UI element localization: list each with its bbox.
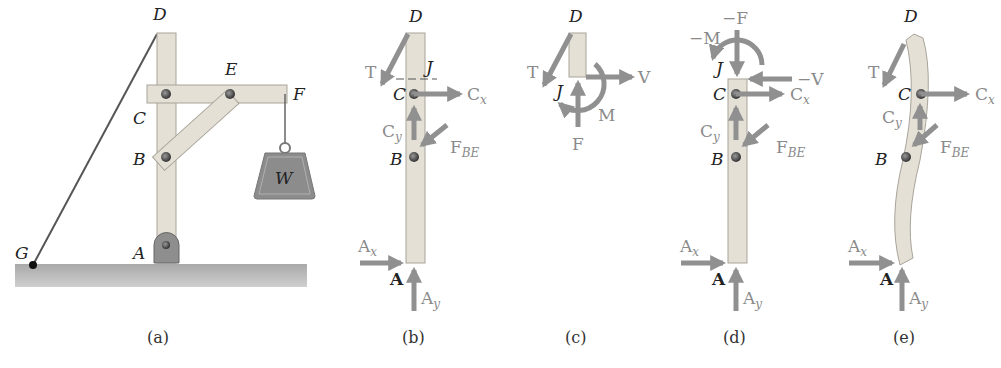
force-fbe-arrow	[422, 125, 447, 145]
force-t-arrow	[382, 34, 408, 84]
weight-hook	[280, 143, 290, 153]
label-w: W	[275, 168, 294, 188]
segment-ja	[728, 79, 747, 263]
label-a: A	[389, 269, 404, 289]
label-c: C	[133, 108, 146, 128]
anchor-g	[29, 261, 37, 269]
panel-d: −M −F −V J C B A Cx Cy FBE Ax Ay (d)	[679, 8, 824, 347]
pin-b	[161, 152, 171, 162]
label-fbe: FBE	[776, 137, 806, 160]
force-fbe-arrow	[744, 125, 768, 145]
label-d: D	[408, 6, 423, 26]
label-d: D	[152, 4, 167, 24]
label-f: F	[572, 134, 584, 154]
caption-b: (b)	[402, 328, 425, 347]
label-e: E	[224, 59, 238, 79]
label-m: M	[598, 105, 615, 125]
label-b: B	[710, 149, 724, 169]
label-c: C	[898, 84, 911, 104]
label-v: V	[637, 67, 651, 87]
label-cy: Cy	[700, 121, 720, 144]
label-b: B	[132, 149, 146, 169]
label-a: A	[131, 243, 145, 263]
panel-c: D J T V M F (c)	[527, 6, 651, 347]
label-j: J	[553, 81, 564, 101]
label-fbe: FBE	[940, 137, 970, 160]
label-neg-m: −M	[689, 28, 721, 48]
label-ax: Ax	[847, 236, 867, 259]
label-ax: Ax	[357, 236, 377, 259]
label-c: C	[393, 84, 406, 104]
caption-a: (a)	[147, 328, 169, 347]
caption-d: (d)	[723, 328, 746, 347]
label-cx: Cx	[467, 84, 487, 107]
label-cy: Cy	[382, 121, 402, 144]
caption-c: (c)	[565, 328, 586, 347]
force-t-arrow	[884, 44, 904, 85]
label-ay: Ay	[908, 288, 928, 311]
force-t-arrow	[544, 34, 571, 85]
panel-b: D J C B A T Cx Cy FBE Ax Ay (b)	[357, 6, 487, 347]
segment-dj	[569, 33, 586, 77]
label-fbe: FBE	[450, 137, 480, 160]
label-t: T	[527, 62, 539, 82]
panel-a: W D E F C B A G (a)	[15, 4, 315, 347]
label-c: C	[713, 84, 726, 104]
label-t: T	[868, 62, 880, 82]
label-ax: Ax	[679, 236, 699, 259]
label-ay: Ay	[420, 288, 440, 311]
caption-e: (e)	[893, 328, 915, 347]
label-j: J	[713, 58, 724, 78]
label-d: D	[903, 6, 918, 26]
frame-free-body-diagrams: W D E F C B A G (a) D J C B A T Cx Cy FB…	[0, 0, 1001, 368]
label-g: G	[15, 243, 29, 263]
pin-a	[162, 241, 170, 249]
label-t: T	[365, 62, 377, 82]
label-d: D	[568, 6, 583, 26]
label-a: A	[879, 269, 894, 289]
pin-c	[161, 89, 171, 99]
label-b: B	[874, 149, 888, 169]
label-ay: Ay	[742, 288, 762, 311]
pin-b	[731, 152, 741, 162]
label-a: A	[711, 269, 726, 289]
label-cy: Cy	[882, 107, 902, 130]
label-b: B	[389, 149, 403, 169]
member-adc	[406, 33, 425, 263]
deformed-member	[895, 34, 929, 265]
pin-b	[901, 152, 911, 162]
ground	[15, 264, 307, 287]
label-f: F	[292, 84, 306, 104]
label-neg-f: −F	[722, 8, 748, 28]
pin-b	[409, 152, 419, 162]
pin-e	[225, 89, 235, 99]
panel-e: D C B A T Cx Cy FBE Ax Ay (e)	[847, 6, 995, 347]
label-cx: Cx	[975, 84, 995, 107]
